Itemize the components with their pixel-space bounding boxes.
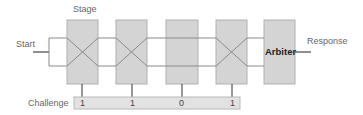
response-label: Response <box>307 36 348 46</box>
stage-label: Stage <box>73 4 97 14</box>
arbiter-label: Arbiter <box>265 46 296 57</box>
challenge-bit-4: 1 <box>230 98 235 108</box>
challenge-bit-2: 1 <box>130 98 135 108</box>
challenge-bar <box>74 97 240 109</box>
challenge-bit-3: 0 <box>179 98 184 108</box>
challenge-bit-1: 1 <box>80 98 85 108</box>
challenge-label: Challenge <box>28 98 69 108</box>
start-label: Start <box>16 39 35 49</box>
stage-box-3 <box>166 20 198 84</box>
